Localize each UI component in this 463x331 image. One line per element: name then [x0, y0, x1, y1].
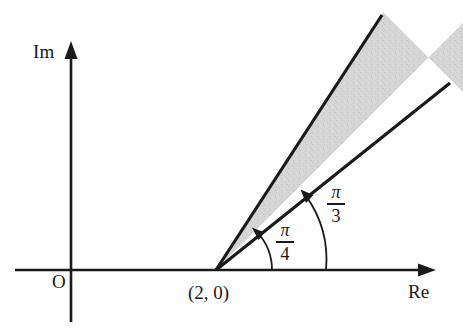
fraction-bar — [327, 203, 345, 205]
origin-label: O — [52, 272, 66, 291]
complex-plane-figure: Im Re O (2, 0) π 4 π 3 — [0, 0, 463, 331]
angle-label-pi-over-3-numerator: π — [323, 183, 349, 202]
angle-label-pi-over-4: π 4 — [272, 221, 298, 263]
angle-label-pi-over-4-numerator: π — [272, 221, 298, 240]
vertex-point-label: (2, 0) — [188, 283, 229, 302]
imaginary-axis-label: Im — [33, 42, 55, 61]
angle-label-pi-over-4-denominator: 4 — [272, 244, 298, 263]
real-axis-arrowhead — [418, 264, 436, 277]
real-axis-label: Re — [408, 282, 430, 301]
angle-label-pi-over-3: π 3 — [323, 183, 349, 225]
shaded-sector-region — [216, 12, 463, 270]
angle-label-pi-over-3-denominator: 3 — [323, 206, 349, 225]
upper-ray-pi-over-3 — [216, 15, 382, 270]
fraction-bar — [276, 241, 294, 243]
imaginary-axis-arrowhead — [65, 41, 78, 59]
figure-canvas — [0, 0, 463, 331]
